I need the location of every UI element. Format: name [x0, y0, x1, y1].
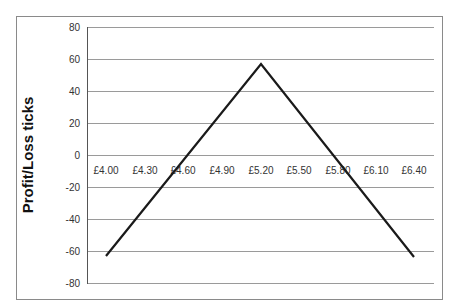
y-tick: 0 [74, 150, 80, 161]
x-tick-labels: £4.00 £4.30 £4.60 £4.90 £5.20 £5.50 £5.8… [93, 165, 426, 176]
profit-loss-line [106, 64, 414, 257]
y-tick: 20 [69, 118, 81, 129]
y-axis-title: Profit/Loss ticks [19, 97, 36, 214]
y-tick: 60 [69, 54, 81, 65]
y-tick-labels: 80 60 40 20 0 -20 -40 -60 -80 [66, 22, 81, 289]
y-tick: 80 [69, 22, 81, 33]
x-tick: £4.30 [132, 165, 157, 176]
chart-plot: 80 60 40 20 0 -20 -40 -60 -80 £4.00 £4.3… [0, 0, 458, 308]
y-tick: -40 [66, 214, 81, 225]
y-tick: 40 [69, 86, 81, 97]
x-tick: £4.00 [93, 165, 118, 176]
x-tick: £4.90 [209, 165, 234, 176]
x-tick: £5.50 [286, 165, 311, 176]
y-tick: -80 [66, 278, 81, 289]
x-tick: £5.20 [248, 165, 273, 176]
y-tick: -20 [66, 182, 81, 193]
x-tick: £6.10 [363, 165, 388, 176]
x-tick: £6.40 [401, 165, 426, 176]
y-tick: -60 [66, 246, 81, 257]
